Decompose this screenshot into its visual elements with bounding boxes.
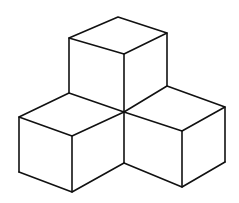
right-cube-bottom-edge [124, 162, 225, 187]
top-cube-top-face [69, 17, 167, 54]
three-cubes-diagram [0, 0, 239, 203]
cubes-drawing [0, 0, 239, 203]
left-cube-top-face [19, 93, 124, 136]
left-cube [19, 93, 124, 192]
right-cube [124, 86, 225, 187]
right-cube-top-face [124, 86, 225, 131]
cubes-group [19, 17, 225, 192]
